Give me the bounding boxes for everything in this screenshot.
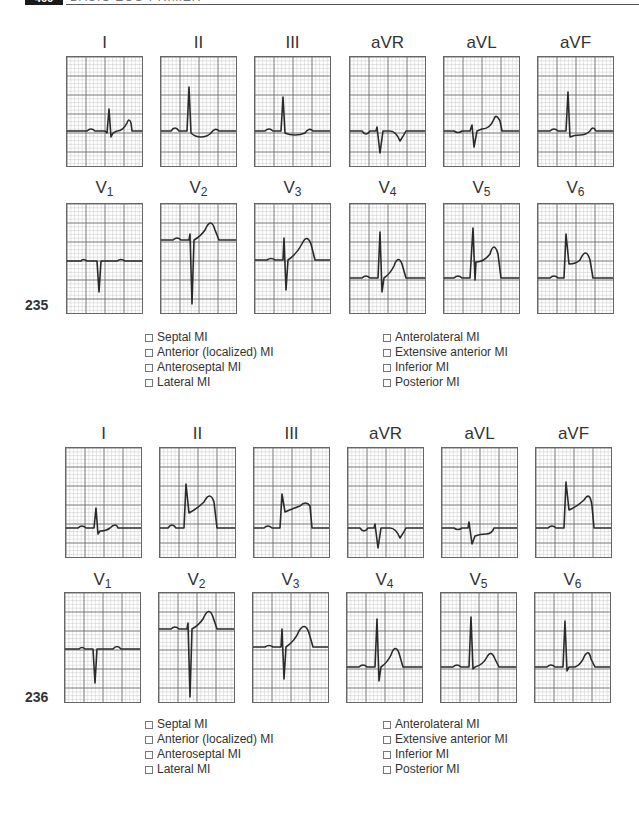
- checkbox[interactable]: [383, 766, 391, 774]
- option-inferior-mi[interactable]: Inferior MI: [383, 747, 508, 762]
- ecg-grid: [444, 204, 520, 314]
- option-anterolateral-mi[interactable]: Anterolateral MI: [383, 330, 508, 345]
- checkbox[interactable]: [383, 379, 391, 387]
- checkbox[interactable]: [383, 751, 391, 759]
- ecg-grid: [67, 204, 143, 314]
- checkbox[interactable]: [145, 364, 153, 372]
- options-left: Septal MI Anterior (localized) MI Antero…: [145, 330, 274, 390]
- ecg-strip-V1: [64, 592, 141, 703]
- ecg-strip-V2: [160, 203, 237, 314]
- option-posterior-mi[interactable]: Posterior MI: [383, 762, 508, 777]
- lead-label-V6: V6: [537, 178, 614, 202]
- header-rule: [66, 4, 639, 5]
- options-left: Septal MI Anterior (localized) MI Antero…: [145, 717, 274, 777]
- ecg-grid: [535, 593, 611, 703]
- lead-label-V5: V5: [440, 570, 517, 594]
- lead-label-II: II: [159, 424, 236, 444]
- lead-label-V3: V3: [254, 178, 331, 202]
- checkbox[interactable]: [145, 349, 153, 357]
- option-septal-mi[interactable]: Septal MI: [145, 330, 274, 345]
- ecg-grid: [161, 204, 237, 314]
- ecg-strip-aVR: [349, 56, 426, 167]
- option-posterior-mi[interactable]: Posterior MI: [383, 375, 508, 390]
- ecg-strip-I: [65, 447, 142, 558]
- option-anterolateral-mi[interactable]: Anterolateral MI: [383, 717, 508, 732]
- ecg-grid: [255, 57, 331, 167]
- page-header: 466 BASIC ECG PRIMER: [0, 0, 639, 10]
- option-anteroseptal-mi[interactable]: Anteroseptal MI: [145, 747, 274, 762]
- ecg-strip-V3: [254, 203, 331, 314]
- option-lateral-mi[interactable]: Lateral MI: [145, 375, 274, 390]
- ecg-grid: [161, 57, 237, 167]
- lead-label-aVF: aVF: [535, 424, 612, 444]
- lead-label-aVL: aVL: [443, 33, 520, 53]
- checkbox[interactable]: [383, 334, 391, 342]
- options-right: Anterolateral MI Extensive anterior MI I…: [383, 717, 508, 777]
- ecg-grid: [350, 204, 426, 314]
- lead-label-aVF: aVF: [537, 33, 614, 53]
- ecg-strip-III: [253, 447, 330, 558]
- checkbox[interactable]: [145, 334, 153, 342]
- ecg-grid: [65, 593, 141, 703]
- checkbox[interactable]: [383, 364, 391, 372]
- option-extensive-anterior-mi[interactable]: Extensive anterior MI: [383, 345, 508, 360]
- ecg-strip-V1: [66, 203, 143, 314]
- option-anterior-localized-mi[interactable]: Anterior (localized) MI: [145, 345, 274, 360]
- ecg-grid: [254, 448, 330, 558]
- lead-label-I: I: [65, 424, 142, 444]
- lead-label-V1: V1: [64, 570, 141, 594]
- lead-label-V4: V4: [346, 570, 423, 594]
- lead-label-aVR: aVR: [349, 33, 426, 53]
- lead-label-V2: V2: [158, 570, 235, 594]
- lead-label-V1: V1: [66, 178, 143, 202]
- ecg-strip-I: [66, 56, 143, 167]
- page-number: 466: [25, 0, 63, 5]
- ecg-strip-aVF: [537, 56, 614, 167]
- ecg-grid: [67, 57, 143, 167]
- ecg-grid: [444, 57, 520, 167]
- checkbox[interactable]: [145, 751, 153, 759]
- ecg-strip-aVF: [535, 447, 612, 558]
- ecg-strip-aVL: [443, 56, 520, 167]
- ecg-grid: [536, 448, 612, 558]
- lead-label-aVR: aVR: [347, 424, 424, 444]
- ecg-strip-V2: [158, 592, 235, 703]
- ecg-strip-II: [160, 56, 237, 167]
- lead-label-V3: V3: [252, 570, 329, 594]
- ecg-grid: [538, 204, 614, 314]
- options-right: Anterolateral MI Extensive anterior MI I…: [383, 330, 508, 390]
- ecg-strip-V6: [537, 203, 614, 314]
- option-septal-mi[interactable]: Septal MI: [145, 717, 274, 732]
- ecg-strip-aVL: [441, 447, 518, 558]
- lead-label-V4: V4: [349, 178, 426, 202]
- option-lateral-mi[interactable]: Lateral MI: [145, 762, 274, 777]
- checkbox[interactable]: [145, 766, 153, 774]
- lead-label-II: II: [160, 33, 237, 53]
- ecg-grid: [255, 204, 331, 314]
- lead-label-III: III: [253, 424, 330, 444]
- option-inferior-mi[interactable]: Inferior MI: [383, 360, 508, 375]
- question-number: 236: [25, 689, 48, 705]
- ecg-strip-V4: [349, 203, 426, 314]
- checkbox[interactable]: [383, 736, 391, 744]
- checkbox[interactable]: [383, 721, 391, 729]
- ecg-strip-V3: [252, 592, 329, 703]
- ecg-grid: [160, 448, 236, 558]
- running-title: BASIC ECG PRIMER: [70, 0, 201, 3]
- ecg-grid: [350, 57, 426, 167]
- option-anteroseptal-mi[interactable]: Anteroseptal MI: [145, 360, 274, 375]
- ecg-grid: [347, 593, 423, 703]
- checkbox[interactable]: [145, 721, 153, 729]
- option-extensive-anterior-mi[interactable]: Extensive anterior MI: [383, 732, 508, 747]
- checkbox[interactable]: [145, 736, 153, 744]
- checkbox[interactable]: [145, 379, 153, 387]
- ecg-grid: [253, 593, 329, 703]
- ecg-strip-aVR: [347, 447, 424, 558]
- lead-label-V5: V5: [443, 178, 520, 202]
- ecg-strip-V6: [534, 592, 611, 703]
- ecg-strip-V5: [440, 592, 517, 703]
- ecg-grid: [442, 448, 518, 558]
- option-anterior-localized-mi[interactable]: Anterior (localized) MI: [145, 732, 274, 747]
- question-number: 235: [25, 297, 48, 313]
- checkbox[interactable]: [383, 349, 391, 357]
